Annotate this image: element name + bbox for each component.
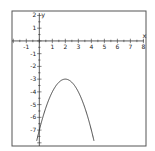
y-tick-label: -6: [30, 113, 36, 120]
x-axis-label: x: [142, 32, 146, 40]
y-tick-label: -1: [30, 50, 36, 57]
y-tick-label: -4: [30, 88, 36, 95]
x-tick-label: 7: [128, 43, 132, 50]
y-tick-label: 1: [32, 24, 36, 31]
x-tick-label: 8: [141, 43, 145, 50]
y-tick-label: -5: [30, 101, 36, 108]
x-tick-label: 1: [50, 43, 54, 50]
x-tick-label: 3: [76, 43, 80, 50]
x-tick-label: 2: [63, 43, 67, 50]
y-tick-label: -7: [30, 126, 36, 133]
y-tick-label: -3: [30, 75, 36, 82]
x-tick-label: 4: [89, 43, 93, 50]
x-tick-label: -1: [23, 43, 29, 50]
y-axis-label: y: [41, 11, 45, 19]
x-tick-label: 6: [115, 43, 119, 50]
x-tick-label: 5: [102, 43, 106, 50]
y-tick-label: 2: [32, 11, 36, 18]
y-tick-label: -2: [30, 62, 36, 69]
parabola-chart: -11234567821-1-2-3-4-5-6-7 x y: [0, 0, 155, 151]
